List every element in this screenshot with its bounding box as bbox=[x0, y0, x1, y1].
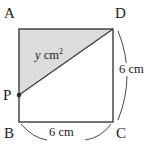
shaded-area-label: y cm2 bbox=[35, 48, 63, 62]
geometry-figure: A D C B P y cm2 6 cm 6 cm bbox=[0, 0, 152, 153]
vertex-label-p: P bbox=[3, 88, 11, 103]
figure-canvas bbox=[0, 0, 152, 153]
dimension-label-bc: 6 cm bbox=[48, 126, 75, 139]
vertex-label-b: B bbox=[4, 126, 14, 141]
vertex-label-d: D bbox=[115, 6, 126, 21]
vertex-label-a: A bbox=[4, 6, 15, 21]
point-p-marker bbox=[17, 93, 22, 98]
dimension-arc-bc-left bbox=[21, 124, 47, 140]
area-unit-exponent: 2 bbox=[59, 47, 63, 56]
area-unit: cm bbox=[44, 48, 59, 62]
vertex-label-c: C bbox=[116, 126, 126, 141]
dimension-arc-bc-right bbox=[85, 124, 111, 140]
dimension-label-dc: 6 cm bbox=[118, 63, 145, 76]
